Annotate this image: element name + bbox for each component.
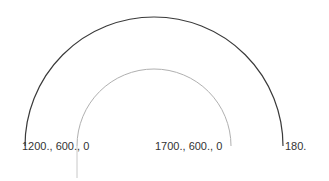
coordinate-label-left: 1200., 600., 0 (22, 140, 89, 152)
coordinate-label-center: 1700., 600., 0 (155, 140, 222, 152)
drawing-canvas (0, 0, 329, 181)
inner-arc (77, 69, 231, 146)
outer-arc (25, 17, 283, 146)
angle-label-right: 180. (285, 140, 306, 152)
